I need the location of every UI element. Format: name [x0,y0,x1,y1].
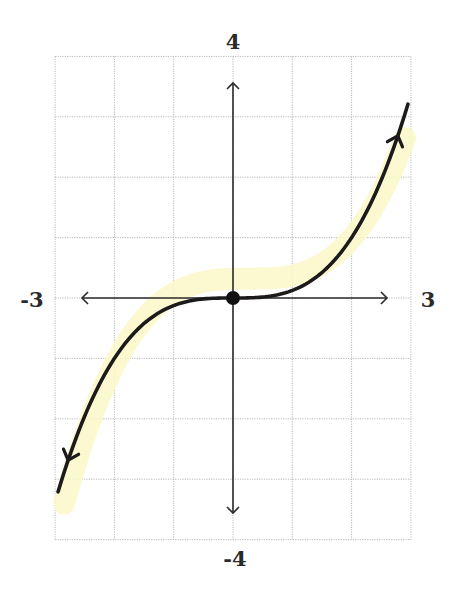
origin-point [226,291,240,305]
highlighter-stroke [64,138,405,503]
x-max-label: 3 [421,289,436,310]
y-max-label: 4 [226,31,241,52]
x-min-label: -3 [20,289,43,310]
cubic-function-graph [0,0,454,602]
y-min-label: -4 [223,548,246,569]
